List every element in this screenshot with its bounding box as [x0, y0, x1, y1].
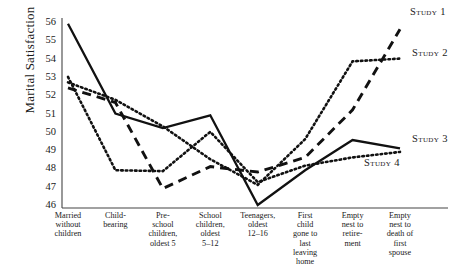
y-axis-tick-label: 56: [34, 16, 56, 27]
legend-item-study-4[interactable]: Study 4: [364, 157, 400, 168]
chart-container: Marital Satisfaction 4647484950515253545…: [0, 0, 452, 271]
x-axis-tick-label: Marriedwithoutchildren: [44, 211, 92, 239]
y-axis-tick-label: 54: [34, 53, 56, 64]
series-line-study-3: [68, 24, 400, 205]
y-axis-tick-label: 52: [34, 89, 56, 100]
series-lines: [68, 24, 400, 205]
series-line-study-4: [68, 77, 400, 182]
x-axis-tick-label: Pre-schoolchildren,oldest 5: [139, 211, 187, 248]
series-line-study-1: [68, 29, 400, 188]
series-line-study-2: [68, 59, 400, 185]
x-axis-tick-label: Emptynest toretire-ment: [329, 211, 377, 248]
y-axis-tick-label: 49: [34, 144, 56, 155]
x-axis-tick-label: Emptynest todeath offirstspouse: [376, 211, 424, 257]
y-axis-tick-label: 51: [34, 108, 56, 119]
y-axis-tick-label: 47: [34, 181, 56, 192]
x-axis-tick-label: Schoolchildren,oldest5–12: [186, 211, 234, 248]
x-axis-tick-label: Firstchildgone tolastleavinghome: [281, 211, 329, 266]
x-axis-tick-label: Teenagers,oldest12–16: [234, 211, 282, 239]
y-axis-tick-label: 55: [34, 34, 56, 45]
y-axis-tick-label: 53: [34, 71, 56, 82]
legend-item-study-2[interactable]: Study 2: [412, 47, 448, 58]
y-axis-tick-label: 46: [34, 199, 56, 210]
y-axis-tick-label: 48: [34, 162, 56, 173]
x-axis-tick-label: Child-bearing: [91, 211, 139, 229]
y-axis-tick-label: 50: [34, 126, 56, 137]
legend-item-study-1[interactable]: Study 1: [410, 6, 446, 17]
legend-item-study-3[interactable]: Study 3: [412, 133, 448, 144]
